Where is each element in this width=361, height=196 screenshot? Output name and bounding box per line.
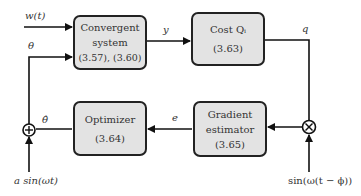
sum-junction <box>23 124 35 136</box>
signal-e: e <box>172 112 178 123</box>
cost-line1: Cost Qᵢ <box>210 20 246 39</box>
convergent-line3: (3.57), (3.60) <box>78 50 141 65</box>
optimizer-line2: (3.64) <box>95 129 125 148</box>
multiply-junction <box>303 121 316 134</box>
signal-w: w(t) <box>25 10 45 21</box>
signal-demod: sin(ω(t − ϕ)) <box>288 175 352 186</box>
convergent-line1: Convergent <box>80 20 139 35</box>
cost-line2: (3.63) <box>213 39 243 58</box>
gradient-line1: Gradient <box>208 107 253 122</box>
optimizer-line1: Optimizer <box>85 110 135 129</box>
gradient-line3: (3.65) <box>215 137 245 152</box>
signal-dither: a sin(ωt) <box>14 175 58 186</box>
convergent-system-block: Convergent system (3.57), (3.60) <box>73 15 147 70</box>
signal-y: y <box>163 24 169 35</box>
cost-block: Cost Qᵢ (3.63) <box>191 12 265 66</box>
gradient-estimator-block: Gradient estimator (3.65) <box>193 101 267 157</box>
signal-q: q <box>302 23 308 34</box>
convergent-line2: system <box>92 35 127 50</box>
gradient-line2: estimator <box>206 122 255 137</box>
optimizer-block: Optimizer (3.64) <box>73 101 147 156</box>
signal-theta: θ <box>28 40 34 51</box>
signal-theta-hat: θ̂ <box>42 114 48 125</box>
